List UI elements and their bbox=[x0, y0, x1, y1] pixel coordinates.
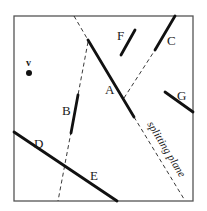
label-c: C bbox=[167, 33, 176, 48]
label-f: F bbox=[117, 28, 124, 43]
bsp-diagram: v A B C D E F G splitting plane bbox=[0, 0, 207, 211]
dashed-line-a-to-c bbox=[124, 50, 155, 98]
viewpoint-dot bbox=[26, 70, 32, 76]
viewpoint-label: v bbox=[26, 57, 31, 68]
label-d: D bbox=[34, 136, 43, 151]
segment-b bbox=[71, 95, 78, 133]
label-g: G bbox=[177, 88, 186, 103]
label-b: B bbox=[62, 103, 71, 118]
label-e: E bbox=[90, 168, 98, 183]
segment-a bbox=[88, 40, 134, 117]
splitting-plane-label: splitting plane bbox=[145, 119, 188, 179]
splitting-plane-upper bbox=[74, 16, 88, 40]
segment-d-e bbox=[14, 132, 117, 201]
label-a: A bbox=[105, 82, 115, 97]
